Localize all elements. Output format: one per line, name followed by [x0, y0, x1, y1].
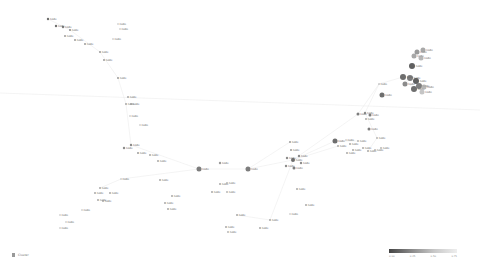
- graph-edge: [365, 84, 379, 113]
- graph-node[interactable]: node: [259, 227, 269, 230]
- graph-node[interactable]: node: [127, 96, 137, 99]
- scale-tick: 0.50: [431, 255, 437, 258]
- graph-node[interactable]: node: [164, 202, 174, 205]
- graph-node[interactable]: node: [226, 191, 236, 194]
- node-label: node: [120, 77, 127, 80]
- graph-edge: [100, 52, 118, 78]
- graph-node[interactable]: node: [47, 18, 57, 21]
- node-label: node: [383, 147, 390, 150]
- graph-node[interactable]: node: [94, 192, 104, 195]
- graph-node[interactable]: node: [74, 39, 84, 42]
- node-label: node: [115, 38, 122, 41]
- graph-node[interactable]: node: [103, 59, 113, 62]
- graph-node[interactable]: node: [300, 162, 310, 165]
- node-label: node: [360, 140, 367, 143]
- node-label: node: [408, 83, 415, 86]
- node-label: node: [299, 188, 306, 191]
- graph-edge: [126, 104, 131, 145]
- graph-node[interactable]: node: [149, 154, 159, 157]
- graph-node[interactable]: node: [123, 147, 133, 150]
- graph-node[interactable]: node: [236, 214, 246, 217]
- graph-node[interactable]: node: [84, 43, 94, 46]
- node-label: node: [77, 39, 84, 42]
- graph-node[interactable]: node: [62, 26, 72, 29]
- graph-node[interactable]: node: [64, 35, 74, 38]
- graph-node[interactable]: node: [246, 167, 259, 172]
- scale-tick: 0.00: [389, 255, 395, 258]
- graph-node[interactable]: node: [112, 38, 121, 41]
- graph-node[interactable]: node: [197, 167, 210, 172]
- node-label: node: [102, 187, 109, 190]
- graph-node[interactable]: node: [225, 226, 235, 229]
- graph-node[interactable]: node: [289, 141, 299, 144]
- graph-node[interactable]: node: [291, 158, 303, 162]
- graph-node[interactable]: node: [409, 63, 423, 69]
- graph-node[interactable]: node: [380, 93, 393, 98]
- color-scale: 0.00 0.25 0.50 0.75: [389, 249, 457, 258]
- graph-node[interactable]: node: [349, 143, 359, 146]
- graph-node[interactable]: node: [227, 231, 237, 234]
- graph-node[interactable]: node: [422, 85, 435, 90]
- graph-edge: [358, 84, 379, 114]
- graph-node[interactable]: node: [81, 209, 90, 212]
- graph-node[interactable]: node: [157, 160, 167, 163]
- graph-node[interactable]: node: [298, 155, 308, 158]
- graph-node[interactable]: node: [290, 149, 300, 152]
- graph-node[interactable]: node: [167, 208, 177, 211]
- graph-node[interactable]: node: [293, 167, 304, 171]
- graph-node[interactable]: node: [102, 200, 112, 203]
- node-label: node: [120, 23, 127, 26]
- node-label: node: [381, 83, 388, 86]
- graph-node[interactable]: node: [171, 195, 181, 198]
- graph-node[interactable]: node: [365, 118, 375, 121]
- graph-node[interactable]: node: [159, 179, 169, 182]
- legend: Cluster: [12, 253, 29, 257]
- graph-node[interactable]: node: [289, 213, 298, 216]
- graph-node[interactable]: node: [419, 56, 432, 61]
- graph-nodes[interactable]: nodenodenodenodenodenodenodenodenodenode…: [47, 18, 434, 234]
- graph-node[interactable]: node: [333, 139, 346, 144]
- graph-node[interactable]: node: [120, 178, 129, 181]
- graph-node[interactable]: node: [59, 214, 68, 217]
- node-label: node: [416, 65, 423, 68]
- graph-node[interactable]: node: [137, 152, 147, 155]
- node-label: node: [202, 168, 209, 171]
- network-graph[interactable]: nodenodenodenodenodenodenodenodenodenode…: [0, 0, 480, 273]
- graph-node[interactable]: node: [211, 191, 221, 194]
- graph-node[interactable]: node: [109, 192, 119, 195]
- node-label: node: [162, 179, 169, 182]
- graph-node[interactable]: node: [296, 188, 306, 191]
- graph-node[interactable]: node: [119, 28, 128, 31]
- graph-node[interactable]: node: [139, 124, 148, 127]
- node-label: node: [352, 143, 359, 146]
- graph-node[interactable]: node: [59, 227, 68, 230]
- color-scale-bar: [389, 249, 457, 253]
- legend-swatch-icon: [12, 253, 15, 257]
- graph-node[interactable]: node: [357, 140, 367, 143]
- graph-node[interactable]: node: [117, 23, 126, 26]
- graph-node[interactable]: node: [69, 29, 79, 32]
- graph-node[interactable]: node: [421, 48, 434, 53]
- graph-node[interactable]: node: [65, 221, 74, 224]
- graph-node[interactable]: node: [99, 51, 109, 54]
- graph-node[interactable]: node: [368, 128, 379, 132]
- node-label: node: [296, 159, 303, 162]
- node-label: node: [62, 214, 69, 217]
- node-label: node: [301, 155, 308, 158]
- graph-node[interactable]: node: [369, 114, 380, 118]
- node-label: node: [140, 152, 147, 155]
- node-label: node: [122, 28, 129, 31]
- node-label: node: [152, 154, 159, 157]
- graph-node[interactable]: node: [129, 115, 138, 118]
- graph-node[interactable]: node: [378, 83, 387, 86]
- graph-node[interactable]: node: [346, 152, 356, 155]
- graph-node[interactable]: node: [305, 204, 315, 207]
- graph-node[interactable]: node: [420, 90, 433, 95]
- graph-node[interactable]: node: [219, 162, 229, 165]
- graph-node[interactable]: node: [337, 145, 347, 148]
- graph-node[interactable]: node: [99, 187, 109, 190]
- graph-node[interactable]: node: [345, 139, 354, 142]
- node-label: node: [160, 160, 167, 163]
- graph-node[interactable]: node: [269, 219, 279, 222]
- graph-node[interactable]: node: [376, 137, 386, 140]
